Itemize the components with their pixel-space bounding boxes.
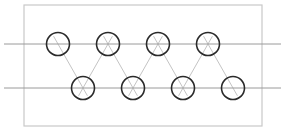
lattice-diagonal-edge bbox=[154, 36, 188, 96]
diagram-frame-border bbox=[24, 5, 262, 126]
lattice-diagonal-edge bbox=[179, 36, 213, 96]
lattice-diagram-svg bbox=[0, 0, 285, 135]
lattice-diagonal-edge bbox=[54, 36, 88, 96]
diagram-frame-group bbox=[24, 5, 262, 126]
lattice-diagram-canvas bbox=[0, 0, 285, 135]
lattice-diagonal-edge bbox=[129, 36, 163, 96]
lattice-diagonal-edge bbox=[79, 36, 113, 96]
lattice-diagonal-edge bbox=[104, 36, 138, 96]
lattice-diagonal-edge bbox=[204, 36, 238, 96]
diagonal-edges-group bbox=[54, 36, 238, 96]
